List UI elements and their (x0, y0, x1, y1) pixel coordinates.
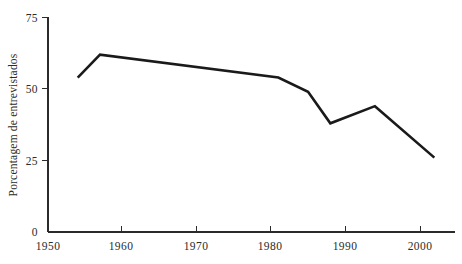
line-chart: Porcentagem de entrevistados 75 50 25 0 … (0, 0, 462, 264)
y-tick-label-25: 25 (26, 155, 38, 167)
y-axis-title: Porcentagem de entrevistados (7, 53, 20, 196)
x-axis-ticks (122, 226, 421, 232)
y-axis-ticks (42, 18, 48, 161)
chart-container: Porcentagem de entrevistados 75 50 25 0 … (0, 0, 462, 264)
data-line-series-0 (78, 55, 435, 158)
x-tick-label-1970: 1970 (184, 240, 209, 252)
y-tick-label-0: 0 (32, 226, 38, 238)
y-axis-tick-labels: 75 50 25 0 (26, 12, 38, 238)
x-tick-label-1960: 1960 (109, 240, 134, 252)
x-tick-label-1950: 1950 (36, 240, 61, 252)
x-tick-label-2000: 2000 (408, 240, 433, 252)
x-axis-tick-labels: 1950 1960 1970 1980 1990 2000 (36, 240, 433, 252)
y-tick-label-75: 75 (26, 12, 38, 24)
x-tick-label-1980: 1980 (258, 240, 283, 252)
y-tick-label-50: 50 (26, 83, 38, 95)
x-tick-label-1990: 1990 (333, 240, 358, 252)
